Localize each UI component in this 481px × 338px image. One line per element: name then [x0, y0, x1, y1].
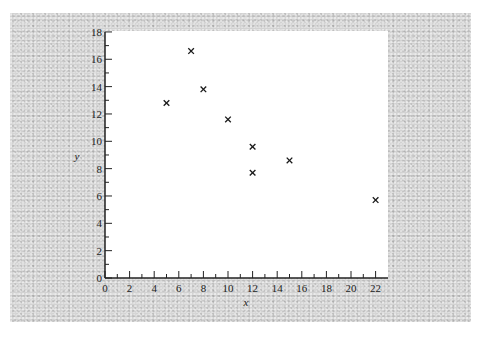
y-tick-label: 12	[91, 108, 102, 120]
y-tick-label: 4	[97, 217, 103, 229]
y-tick-label: 18	[91, 26, 103, 38]
y-tick-label: 14	[91, 81, 103, 93]
x-tick-label: 2	[127, 282, 133, 294]
y-tick-label: 8	[97, 163, 103, 175]
y-tick-label: 6	[97, 190, 103, 202]
x-tick-label: 20	[346, 282, 358, 294]
y-tick-label: 10	[91, 135, 103, 147]
x-tick-label: 0	[102, 282, 108, 294]
x-tick-label: 8	[201, 282, 207, 294]
x-tick-label: 6	[176, 282, 182, 294]
x-tick-label: 12	[247, 282, 258, 294]
x-tick-label: 4	[151, 282, 157, 294]
y-tick-label: 16	[91, 53, 103, 65]
scatter-plot: 0246810121416182022024681012141618 x y	[0, 0, 481, 338]
x-axis-label: x	[243, 296, 249, 308]
x-tick-label: 14	[272, 282, 284, 294]
x-tick-label: 16	[296, 282, 308, 294]
y-tick-label: 2	[97, 245, 103, 257]
x-tick-label: 10	[223, 282, 235, 294]
y-tick-label: 0	[97, 272, 103, 284]
x-tick-label: 22	[370, 282, 381, 294]
y-axis-label: y	[74, 150, 80, 162]
plot-area	[105, 31, 388, 278]
x-tick-label: 18	[321, 282, 333, 294]
